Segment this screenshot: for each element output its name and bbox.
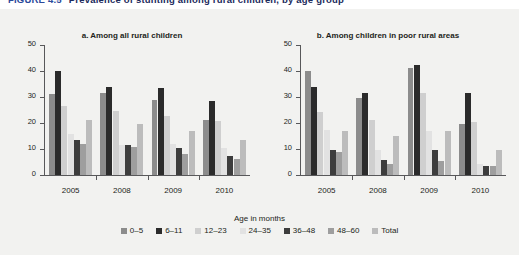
bar (420, 93, 426, 175)
bar (496, 150, 502, 175)
y-tick: 30 (40, 97, 44, 98)
bar (471, 122, 477, 175)
figure-caption-text: Prevalence of stunting among rural child… (69, 0, 344, 5)
y-tick-label: 40 (284, 65, 292, 74)
legend: Age in months 0–56–1112–2324–3536–4848–6… (0, 214, 519, 235)
y-tick: 0 (296, 175, 300, 176)
y-tick-label: 30 (28, 91, 36, 100)
x-tick (404, 176, 405, 180)
bar (221, 148, 227, 175)
bar (86, 120, 92, 175)
bar (445, 131, 451, 175)
legend-item-label: 6–11 (165, 226, 182, 235)
bar (106, 87, 112, 175)
y-tick-label: 30 (284, 91, 292, 100)
bar (393, 136, 399, 175)
legend-item[interactable]: 48–60 (328, 226, 359, 235)
legend-item[interactable]: 0–5 (121, 226, 143, 235)
plot-area-b: Percent 01020304050 2005200820092010 (300, 45, 506, 176)
x-tick (148, 176, 149, 180)
legend-swatch-icon (195, 228, 201, 234)
legend-swatch-icon (156, 228, 162, 234)
y-tick-label: 50 (28, 39, 36, 48)
chart-title-a: a. Among all rural children (6, 31, 258, 40)
bar (465, 93, 471, 175)
y-tick: 40 (296, 71, 300, 72)
bar (113, 111, 119, 175)
y-tick: 30 (296, 97, 300, 98)
y-tick-label: 10 (28, 143, 36, 152)
y-tick-label: 20 (284, 117, 292, 126)
bar (408, 68, 414, 175)
bar (477, 164, 483, 175)
bar (182, 154, 188, 175)
legend-title: Age in months (0, 214, 519, 223)
y-tick: 20 (40, 123, 44, 124)
legend-item[interactable]: 24–35 (240, 226, 271, 235)
legend-item-label: 24–35 (249, 226, 271, 235)
x-group-label: 2009 (164, 186, 182, 195)
bar (459, 124, 465, 175)
bar (432, 150, 438, 175)
bar (125, 145, 131, 175)
legend-item[interactable]: 6–11 (156, 226, 182, 235)
y-tick: 50 (40, 45, 44, 46)
bar (189, 131, 195, 175)
x-tick (199, 176, 200, 180)
legend-item-label: 36–48 (293, 226, 315, 235)
legend-items: 0–56–1112–2324–3536–4848–60Total (0, 226, 519, 235)
y-tick-label: 40 (28, 65, 36, 74)
x-group-label: 2010 (215, 186, 233, 195)
bar (362, 93, 368, 175)
bar (336, 152, 342, 175)
legend-item[interactable]: 36–48 (284, 226, 315, 235)
bar (414, 65, 420, 175)
bar (209, 101, 215, 175)
legend-item[interactable]: 12–23 (195, 226, 226, 235)
bar (375, 150, 381, 175)
bar (324, 130, 330, 176)
bar (215, 121, 221, 175)
legend-swatch-icon (372, 228, 378, 234)
legend-swatch-icon (328, 228, 334, 234)
x-group-label: 2009 (420, 186, 438, 195)
y-tick-label: 20 (28, 117, 36, 126)
figure-caption: FIGURE 4.5Prevalence of stunting among r… (8, 0, 344, 5)
bar (426, 131, 432, 175)
bar (342, 131, 348, 175)
bar (240, 140, 246, 175)
bar (49, 94, 55, 175)
bars-b (301, 45, 506, 175)
bar (74, 140, 80, 175)
y-tick-label: 50 (284, 39, 292, 48)
y-tick-label: 0 (288, 169, 292, 178)
x-group-label: 2008 (369, 186, 387, 195)
y-tick: 0 (40, 175, 44, 176)
y-tick-label: 10 (284, 143, 292, 152)
bar (55, 71, 61, 175)
bar (176, 148, 182, 175)
y-tick: 20 (296, 123, 300, 124)
x-group-label: 2010 (471, 186, 489, 195)
chart-title-b: b. Among children in poor rural areas (262, 31, 514, 40)
legend-item-label: Total (381, 226, 398, 235)
legend-item[interactable]: Total (372, 226, 398, 235)
figure-container: FIGURE 4.5Prevalence of stunting among r… (0, 0, 519, 255)
y-tick: 10 (296, 149, 300, 150)
x-group-label: 2005 (62, 186, 80, 195)
bar (170, 144, 176, 175)
bar (369, 120, 375, 175)
bar (227, 156, 233, 176)
bar (438, 161, 444, 175)
bar (483, 166, 489, 175)
y-tick: 50 (296, 45, 300, 46)
bar (131, 147, 137, 175)
legend-swatch-icon (121, 228, 127, 234)
bar (317, 112, 323, 175)
bar (203, 120, 209, 175)
y-tick-label: 0 (32, 169, 36, 178)
bar (305, 71, 311, 175)
x-tick (352, 176, 353, 180)
bar (152, 100, 158, 175)
bar (381, 160, 387, 175)
